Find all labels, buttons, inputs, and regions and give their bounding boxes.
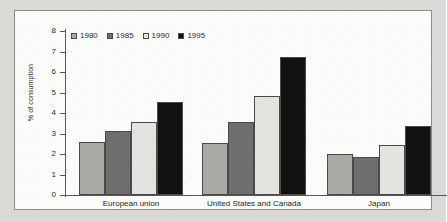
y-tick-6 bbox=[60, 72, 65, 73]
bar-1980-united-states-and-canada bbox=[202, 143, 228, 195]
bar-1985-united-states-and-canada bbox=[228, 122, 254, 195]
bar-1980-japan bbox=[327, 154, 353, 195]
y-tick-label-1: 1 bbox=[42, 171, 56, 179]
bar-1995-japan bbox=[405, 126, 431, 195]
y-tick-label-7: 7 bbox=[42, 48, 56, 56]
y-tick-0 bbox=[60, 195, 65, 196]
y-tick-label-6: 6 bbox=[42, 68, 56, 76]
legend-swatch-1980 bbox=[71, 33, 77, 39]
bar-1985-european-union bbox=[105, 131, 131, 195]
y-tick-label-3: 3 bbox=[42, 130, 56, 138]
y-tick-7 bbox=[60, 52, 65, 53]
bar-1980-european-union bbox=[79, 142, 105, 195]
bar-group-1 bbox=[79, 31, 183, 195]
y-tick-label-2: 2 bbox=[42, 150, 56, 158]
bar-1995-european-union bbox=[157, 102, 183, 195]
y-axis-title: % of consumption bbox=[27, 48, 34, 138]
x-axis-line bbox=[65, 195, 447, 196]
bar-1995-united-states-and-canada bbox=[280, 57, 306, 195]
y-tick-label-0: 0 bbox=[42, 191, 56, 199]
y-axis-line bbox=[65, 29, 66, 197]
bar-1990-european-union bbox=[131, 122, 157, 195]
bar-1990-united-states-and-canada bbox=[254, 96, 280, 195]
y-tick-label-8: 8 bbox=[42, 27, 56, 35]
y-tick-label-4: 4 bbox=[42, 109, 56, 117]
bar-1985-japan bbox=[353, 157, 379, 195]
x-axis-label-2: United States and Canada bbox=[199, 199, 309, 208]
y-tick-3 bbox=[60, 134, 65, 135]
bar-group-2 bbox=[202, 31, 306, 195]
y-tick-1 bbox=[60, 175, 65, 176]
y-tick-2 bbox=[60, 154, 65, 155]
bar-1990-japan bbox=[379, 145, 405, 195]
y-tick-8 bbox=[60, 31, 65, 32]
x-axis-label-1: European union bbox=[76, 199, 186, 208]
y-tick-4 bbox=[60, 113, 65, 114]
bar-group-3 bbox=[327, 31, 431, 195]
chart-panel: 1980 1985 1990 1995 % of consumption 876… bbox=[14, 10, 432, 210]
y-tick-5 bbox=[60, 93, 65, 94]
x-axis-label-3: Japan bbox=[324, 199, 434, 208]
y-tick-label-5: 5 bbox=[42, 89, 56, 97]
